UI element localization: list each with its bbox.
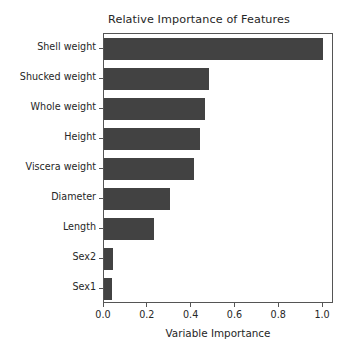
x-tick-mark — [190, 303, 191, 307]
y-tick-label: Whole weight — [31, 101, 96, 112]
x-tick-mark — [322, 303, 323, 307]
chart-title: Relative Importance of Features — [0, 13, 352, 26]
y-axis: Shell weightShucked weightWhole weightHe… — [0, 33, 103, 303]
y-tick-label: Sex1 — [72, 281, 96, 292]
x-tick-mark — [103, 303, 104, 307]
bar-row — [104, 38, 332, 60]
y-tick-mark — [99, 168, 103, 169]
x-tick-mark — [146, 303, 147, 307]
bar[interactable] — [104, 68, 209, 90]
bar[interactable] — [104, 188, 170, 210]
y-tick-mark — [99, 78, 103, 79]
bar-row — [104, 278, 332, 300]
bar[interactable] — [104, 38, 323, 60]
x-tick-label: 0.2 — [139, 309, 154, 320]
x-tick-mark — [278, 303, 279, 307]
y-tick-mark — [99, 258, 103, 259]
bars-layer — [104, 34, 332, 302]
bar[interactable] — [104, 98, 205, 120]
figure-canvas: Relative Importance of Features Shell we… — [0, 0, 352, 364]
x-tick-label: 0.0 — [95, 309, 110, 320]
bar-row — [104, 68, 332, 90]
y-tick-label: Shell weight — [37, 41, 96, 52]
bar-row — [104, 188, 332, 210]
y-tick-label: Diameter — [51, 191, 96, 202]
y-tick-mark — [99, 228, 103, 229]
plot-area — [103, 33, 333, 303]
x-tick-mark — [234, 303, 235, 307]
x-tick-label: 0.8 — [271, 309, 286, 320]
y-tick-mark — [99, 138, 103, 139]
bar-row — [104, 128, 332, 150]
y-tick-mark — [99, 48, 103, 49]
bar-row — [104, 98, 332, 120]
y-tick-label: Length — [63, 221, 96, 232]
y-tick-label: Height — [64, 131, 96, 142]
x-tick-label: 0.6 — [227, 309, 242, 320]
y-tick-label: Shucked weight — [20, 71, 96, 82]
bar[interactable] — [104, 128, 200, 150]
x-tick-label: 1.0 — [314, 309, 329, 320]
y-tick-label: Viscera weight — [26, 161, 96, 172]
bar-row — [104, 248, 332, 270]
bar[interactable] — [104, 248, 113, 270]
bar-row — [104, 218, 332, 240]
y-tick-mark — [99, 198, 103, 199]
x-tick-label: 0.4 — [183, 309, 198, 320]
bar[interactable] — [104, 218, 154, 240]
y-tick-mark — [99, 108, 103, 109]
y-tick-label: Sex2 — [72, 251, 96, 262]
bar[interactable] — [104, 278, 112, 300]
bar-row — [104, 158, 332, 180]
bar[interactable] — [104, 158, 194, 180]
y-tick-mark — [99, 288, 103, 289]
x-axis-title: Variable Importance — [103, 327, 333, 339]
